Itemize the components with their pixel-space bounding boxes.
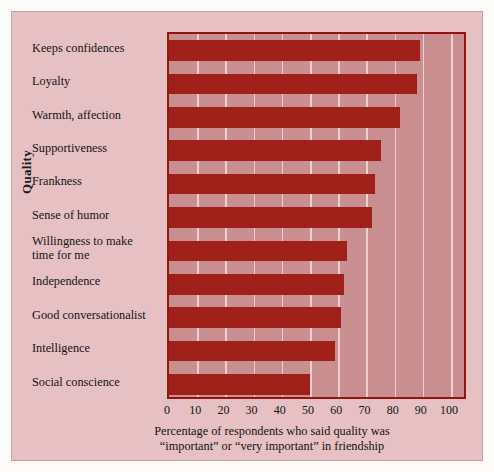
bar (169, 40, 420, 61)
category-label: Good conversationalist (32, 309, 176, 323)
x-tick-label: 70 (358, 403, 370, 418)
plot-area (167, 32, 466, 399)
bar (169, 140, 381, 161)
x-axis-label-line-1: Percentage of respondents who said quali… (112, 424, 432, 439)
x-tick-label: 100 (440, 403, 458, 418)
category-label: Frankness (32, 175, 176, 189)
category-label: Keeps confidences (32, 42, 176, 56)
x-axis-label-line-2: “important” or “very important” in frien… (112, 439, 432, 454)
bar (169, 374, 310, 395)
bar (169, 307, 341, 328)
x-tick-label: 10 (189, 403, 201, 418)
bar (169, 274, 344, 295)
x-tick-label: 0 (164, 403, 170, 418)
x-axis-label: Percentage of respondents who said quali… (112, 424, 432, 454)
category-label: Willingness to make time for me (32, 235, 176, 262)
category-label-list: Keeps confidencesLoyaltyWarmth, affectio… (32, 32, 176, 399)
chart-figure: Quality Keeps confidencesLoyaltyWarmth, … (11, 11, 483, 461)
x-tick-label: 30 (246, 403, 258, 418)
bar (169, 174, 375, 195)
x-tick-label: 60 (330, 403, 342, 418)
bar (169, 74, 417, 95)
x-tick-label: 80 (387, 403, 399, 418)
x-tick-label: 20 (217, 403, 229, 418)
bar (169, 341, 335, 362)
category-label: Intelligence (32, 342, 176, 356)
category-label: Loyalty (32, 75, 176, 89)
category-label: Sense of humor (32, 209, 176, 223)
x-tick-label: 40 (274, 403, 286, 418)
bar (169, 107, 400, 128)
bar (169, 207, 372, 228)
x-tick-label: 50 (302, 403, 314, 418)
x-axis-tick-labels: 0102030405060708090100 (167, 403, 466, 421)
bar (169, 241, 347, 262)
bar-series (169, 34, 464, 397)
category-label: Independence (32, 275, 176, 289)
category-label: Social conscience (32, 376, 176, 390)
category-label: Supportiveness (32, 142, 176, 156)
x-tick-label: 90 (415, 403, 427, 418)
category-label: Warmth, affection (32, 109, 176, 123)
chart-page: Quality Keeps confidencesLoyaltyWarmth, … (0, 0, 494, 472)
